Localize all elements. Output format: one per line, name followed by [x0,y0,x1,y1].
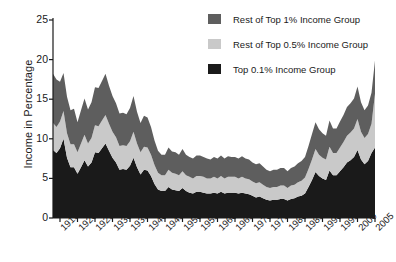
legend-item-rest-of-top-05: Rest of Top 0.5% Income Group [208,34,380,54]
legend-swatch-top-01 [208,64,221,74]
y-tick-label-15: 15 [22,92,48,104]
y-tick-label-0: 0 [22,211,48,223]
legend-swatch-rest-of-top-1 [208,14,221,24]
y-tick-label-25: 25 [22,13,48,25]
legend-label-top-01: Top 0.1% Income Group [233,64,335,75]
legend-swatch-rest-of-top-05 [208,39,221,49]
y-tick-label-20: 20 [22,53,48,65]
legend-label-rest-of-top-05: Rest of Top 0.5% Income Group [233,39,368,50]
legend-item-rest-of-top-1: Rest of Top 1% Income Group [208,9,380,29]
stacked-areas [53,60,375,218]
legend-label-rest-of-top-1: Rest of Top 1% Income Group [233,14,360,25]
legend-item-top-01: Top 0.1% Income Group [208,59,380,79]
chart-legend: Rest of Top 1% Income Group Rest of Top … [208,9,380,84]
y-tick-label-5: 5 [22,171,48,183]
y-tick-label-10: 10 [22,132,48,144]
